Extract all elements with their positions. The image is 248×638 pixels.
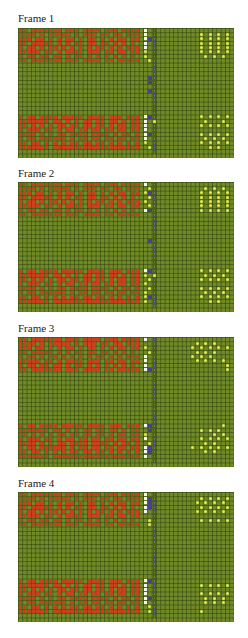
red-cell — [127, 523, 130, 526]
red-cell — [83, 146, 86, 149]
red-cell — [92, 514, 95, 517]
red-cell — [105, 29, 108, 32]
red-cell — [27, 446, 30, 449]
red-cell — [101, 300, 104, 303]
red-cell — [40, 584, 43, 587]
red-cell — [118, 368, 121, 371]
red-cell — [83, 183, 86, 186]
red-cell — [32, 274, 35, 277]
red-cell — [105, 128, 108, 131]
red-cell — [127, 59, 130, 62]
gray-square-cell — [153, 128, 157, 132]
red-cell — [40, 364, 43, 367]
red-cell — [83, 29, 86, 32]
yellow-cell — [226, 287, 229, 290]
gray-square-cell — [153, 269, 157, 273]
red-cell — [32, 59, 35, 62]
red-cell — [70, 605, 73, 608]
red-cell — [19, 200, 22, 203]
red-cell — [96, 519, 99, 522]
red-cell — [83, 287, 86, 290]
red-cell — [53, 424, 56, 427]
red-cell — [101, 450, 104, 453]
red-cell — [131, 493, 134, 496]
red-cell — [57, 278, 60, 281]
yellow-cell — [226, 592, 229, 595]
red-cell — [131, 437, 134, 440]
gray-square-cell — [153, 523, 157, 527]
gray-square-cell — [153, 424, 157, 428]
yellow-cell — [204, 601, 207, 604]
blue-cell — [148, 76, 152, 80]
red-cell — [122, 429, 125, 432]
red-cell — [96, 429, 99, 432]
red-cell — [118, 37, 121, 40]
red-cell — [36, 368, 39, 371]
red-cell — [109, 359, 112, 362]
red-cell — [75, 300, 78, 303]
red-cell — [40, 42, 43, 45]
red-cell — [49, 287, 52, 290]
red-cell — [49, 597, 52, 600]
yellow-cell — [200, 519, 203, 522]
red-cell — [122, 128, 125, 131]
red-cell — [88, 183, 91, 186]
red-cell — [66, 146, 69, 149]
red-cell — [101, 196, 104, 199]
red-cell — [101, 120, 104, 123]
red-cell — [75, 59, 78, 62]
red-cell — [79, 133, 82, 136]
gray-square-cell — [153, 59, 157, 63]
red-cell — [19, 115, 22, 118]
yellow-cell — [200, 42, 203, 45]
yellow-cell — [148, 519, 151, 522]
gray-square-cell — [153, 385, 157, 389]
yellow-cell — [217, 37, 220, 40]
red-cell — [49, 137, 52, 140]
red-cell — [135, 493, 138, 496]
gray-square-cell — [153, 63, 157, 67]
yellow-cell — [148, 351, 151, 354]
gray-square-cell — [153, 442, 157, 446]
red-cell — [79, 601, 82, 604]
red-cell — [88, 450, 91, 453]
red-cell — [27, 346, 30, 349]
red-cell — [83, 128, 86, 131]
red-cell — [49, 579, 52, 582]
red-cell — [19, 442, 22, 445]
red-cell — [32, 519, 35, 522]
red-cell — [75, 364, 78, 367]
red-cell — [135, 300, 138, 303]
yellow-cell — [217, 269, 220, 272]
red-cell — [92, 137, 95, 140]
red-cell — [23, 141, 26, 144]
red-cell — [45, 213, 48, 216]
gray-square-cell — [153, 196, 157, 200]
yellow-cell — [144, 346, 147, 349]
red-cell — [135, 133, 138, 136]
red-cell — [45, 364, 48, 367]
red-cell — [66, 50, 69, 53]
red-cell — [23, 204, 26, 207]
red-cell — [32, 128, 35, 131]
red-cell — [27, 204, 30, 207]
red-cell — [70, 146, 73, 149]
yellow-cell — [148, 287, 151, 290]
red-cell — [135, 46, 138, 49]
red-cell — [135, 213, 138, 216]
yellow-cell — [209, 200, 212, 203]
yellow-cell — [213, 137, 216, 140]
red-cell — [135, 597, 138, 600]
gray-square-cell — [153, 377, 157, 381]
gray-square-cell — [153, 239, 157, 243]
gray-square-cell — [153, 342, 157, 346]
red-cell — [92, 291, 95, 294]
red-cell — [70, 523, 73, 526]
red-cell — [105, 338, 108, 341]
yellow-cell — [213, 442, 216, 445]
red-cell — [96, 269, 99, 272]
red-cell — [40, 37, 43, 40]
gray-square-cell — [153, 592, 157, 596]
red-cell — [23, 29, 26, 32]
red-cell — [75, 523, 78, 526]
